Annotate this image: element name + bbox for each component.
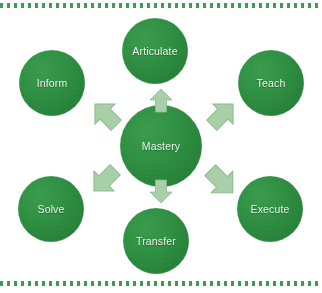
diagram-canvas: Mastery Articulate Teach Execute Transfe… [0,0,322,293]
node-execute[interactable]: Execute [237,176,303,242]
node-transfer-label: Transfer [136,235,176,247]
node-inform-label: Inform [37,77,68,89]
node-articulate-label: Articulate [132,45,177,57]
top-dotted-border [0,3,322,8]
arrow-to-execute-icon [203,163,239,199]
node-execute-label: Execute [251,203,290,215]
arrow-to-articulate-icon [148,88,174,114]
bottom-dotted-border [0,281,322,286]
node-mastery[interactable]: Mastery [120,105,202,187]
node-teach-label: Teach [257,77,286,89]
arrow-to-solve-icon [88,163,122,197]
node-articulate[interactable]: Articulate [122,18,188,84]
node-solve-label: Solve [37,203,64,215]
node-inform[interactable]: Inform [19,50,85,116]
node-mastery-label: Mastery [142,140,180,152]
node-solve[interactable]: Solve [18,176,84,242]
arrow-to-teach-icon [205,98,239,132]
arrow-to-inform-icon [89,98,123,132]
node-teach[interactable]: Teach [238,50,304,116]
node-transfer[interactable]: Transfer [123,208,189,274]
arrow-to-transfer-icon [148,178,174,204]
